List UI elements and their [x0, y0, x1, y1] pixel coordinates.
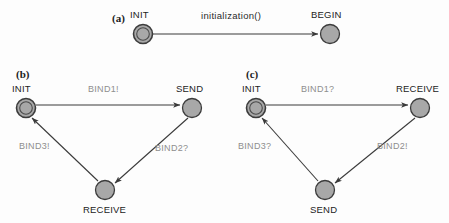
- state-machine-diagrams: [0, 0, 449, 223]
- edge-label-c-bind3: BIND3?: [238, 141, 271, 151]
- panel-tag-b: (b): [16, 68, 29, 80]
- node-b-send[interactable]: [183, 99, 202, 118]
- node-b-receive[interactable]: [96, 181, 115, 200]
- edge-label-a-initialization: initialization(): [201, 10, 261, 21]
- edge-label-c-bind2: BIND2!: [377, 141, 408, 151]
- node-a-begin[interactable]: [321, 25, 340, 44]
- node-b-init[interactable]: [17, 99, 36, 118]
- node-label-c-send: SEND: [310, 204, 337, 215]
- node-c-receive[interactable]: [411, 99, 430, 118]
- figure-canvas: (a) INIT BEGIN initialization() (b) INIT…: [0, 0, 449, 223]
- panel-a-graph: [134, 25, 340, 44]
- edge-label-b-bind1: BIND1!: [88, 84, 119, 94]
- edge-label-b-bind2: BIND2?: [155, 143, 188, 153]
- node-label-a-init: INIT: [130, 9, 149, 20]
- node-label-c-receive: RECEIVE: [396, 83, 439, 94]
- panel-tag-c: (c): [246, 68, 258, 80]
- node-c-init[interactable]: [247, 99, 266, 118]
- edge-label-b-bind3: BIND3!: [19, 141, 50, 151]
- node-label-b-receive: RECEIVE: [83, 204, 126, 215]
- node-label-b-init: INIT: [12, 83, 31, 94]
- edge-label-c-bind1: BIND1?: [301, 84, 334, 94]
- panel-tag-a: (a): [112, 12, 125, 24]
- node-label-c-init: INIT: [242, 83, 261, 94]
- node-a-init[interactable]: [134, 25, 153, 44]
- node-c-send[interactable]: [316, 181, 335, 200]
- node-label-a-begin: BEGIN: [311, 9, 342, 20]
- node-label-b-send: SEND: [176, 83, 203, 94]
